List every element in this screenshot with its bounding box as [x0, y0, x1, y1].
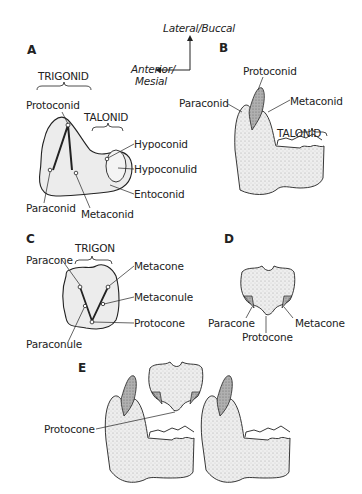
- protocone-label-e: Protocone: [44, 423, 95, 435]
- paracone-label-d: Paracone: [208, 317, 255, 329]
- hypoconid-label: Hypoconid: [134, 138, 188, 150]
- anterior-label: Anterior/: [131, 63, 175, 75]
- entoconid-label: Entoconid: [134, 188, 184, 200]
- talonid-label-b: TALONID: [277, 127, 321, 139]
- talonid-label-a: TALONID: [84, 111, 128, 123]
- panel-c-occlusal-upper-molar: [62, 256, 134, 342]
- metacone-label-c: Metacone: [134, 260, 184, 272]
- metaconid-label-a: Metaconid: [81, 208, 134, 220]
- metacone-label-d: Metacone: [295, 317, 345, 329]
- panel-a-letter: A: [27, 43, 36, 57]
- metaconid-label-b: Metaconid: [290, 95, 343, 107]
- mesial-label: Mesial: [135, 75, 167, 87]
- lateral-buccal-label: Lateral/Buccal: [163, 22, 235, 34]
- panel-b-letter: B: [219, 41, 228, 55]
- protoconid-label-a: Protoconid: [26, 99, 80, 111]
- trigon-label: TRIGON: [75, 242, 115, 254]
- hypoconulid-label: Hypoconulid: [134, 163, 197, 175]
- panel-e-occlusion: [96, 362, 290, 482]
- paraconid-label-b: Paraconid: [179, 97, 229, 109]
- paracone-label-c: Paracone: [26, 254, 73, 266]
- panel-c-letter: C: [26, 232, 35, 246]
- metaconule-label: Metaconule: [134, 291, 193, 303]
- panel-d-letter: D: [224, 232, 234, 246]
- trigonid-label: TRIGONID: [38, 70, 89, 82]
- protoconid-label-b: Protoconid: [243, 65, 297, 77]
- panel-e-letter: E: [78, 361, 86, 375]
- protocone-label-c: Protocone: [134, 317, 185, 329]
- paraconule-label: Paraconule: [26, 338, 82, 350]
- protocone-label-d: Protocone: [242, 331, 293, 343]
- paraconid-label-a: Paraconid: [26, 202, 76, 214]
